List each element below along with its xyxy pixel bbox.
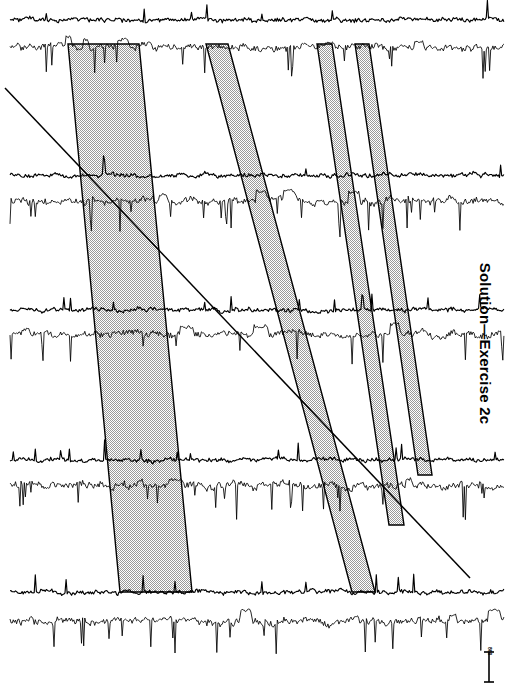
- band-1: [68, 44, 192, 592]
- row-4-emg: [10, 478, 504, 520]
- figure-canvas: Solution—Exercise 2c 800: [0, 0, 514, 687]
- polygraph-plot: [0, 0, 514, 687]
- row-5-emg: [10, 609, 504, 654]
- band-2: [206, 44, 375, 592]
- scale-bar-icon: [480, 648, 514, 686]
- row-3-emg: [10, 323, 504, 365]
- band-4: [355, 44, 432, 475]
- shaded-bands-group: [68, 44, 432, 592]
- scale-bar: 800: [480, 648, 514, 686]
- row-3-eeg: [10, 294, 504, 313]
- row-5-eeg: [10, 574, 504, 595]
- scale-bar-label: 800: [487, 647, 493, 655]
- row-1-eeg: [10, 0, 504, 23]
- row-4-eeg: [10, 440, 504, 464]
